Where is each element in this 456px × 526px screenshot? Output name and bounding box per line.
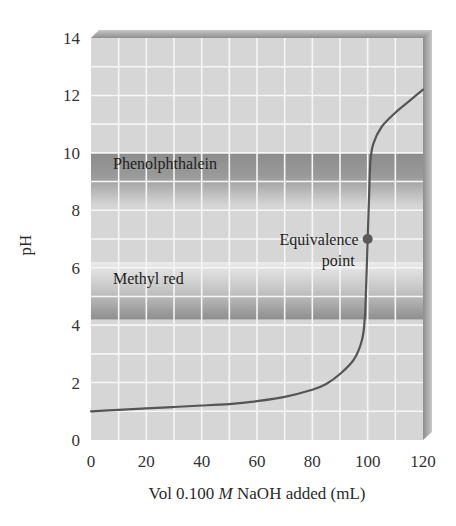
y-tick-label: 8 <box>72 201 81 220</box>
equivalence-point-label-line1: Equivalence <box>280 231 359 249</box>
x-axis-title: Vol 0.100 M NaOH added (mL) <box>149 484 366 503</box>
y-tick-label: 10 <box>63 144 80 163</box>
equivalence-point-marker <box>363 234 373 244</box>
y-tick-label: 12 <box>63 86 80 105</box>
x-tick-label: 0 <box>87 452 96 471</box>
x-tick-label: 20 <box>138 452 155 471</box>
x-tick-label: 40 <box>193 452 210 471</box>
equivalence-point-label-line2: point <box>322 252 355 270</box>
titration-chart: Phenolphthalein Methyl red Equivalence p… <box>0 0 456 526</box>
y-tick-label: 2 <box>72 374 81 393</box>
y-axis-title: pH <box>16 235 35 256</box>
x-axis-title-prefix: Vol 0.100 <box>149 484 219 503</box>
x-tick-label: 120 <box>410 452 436 471</box>
phenolphthalein-label: Phenolphthalein <box>113 155 217 173</box>
x-axis-title-suffix: NaOH added (mL) <box>233 484 366 503</box>
y-tick-label: 0 <box>72 431 81 450</box>
y-tick-label: 4 <box>72 316 81 335</box>
x-axis-title-italic: M <box>218 484 234 503</box>
x-axis-ticks: 020406080100120 <box>87 452 436 471</box>
y-tick-label: 14 <box>63 29 81 48</box>
x-tick-label: 60 <box>249 452 266 471</box>
y-tick-label: 6 <box>72 259 81 278</box>
x-tick-label: 100 <box>355 452 381 471</box>
y-axis-ticks: 02468101214 <box>63 29 81 450</box>
x-tick-label: 80 <box>304 452 321 471</box>
methyl-red-label: Methyl red <box>113 270 184 288</box>
